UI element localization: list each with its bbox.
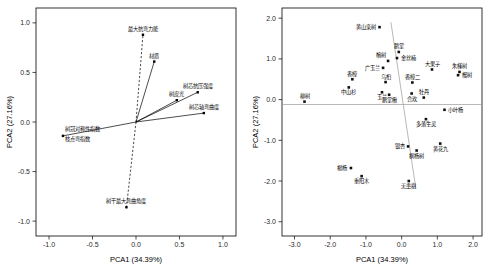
score-point-label: 银杏 (395, 142, 405, 150)
loading-vector-head (176, 99, 178, 101)
y-tick-label: -1.0 (18, 218, 30, 225)
score-point (360, 175, 363, 178)
score-point-label: 无患樹 (401, 182, 416, 190)
score-point (388, 93, 391, 96)
loadings-plot-svg: -1.0-0.50.00.51.0 -1.0-0.50.00.51.0 最大抗弯… (0, 0, 247, 275)
score-point (422, 96, 425, 99)
score-point-label: 广玉兰 (365, 64, 380, 72)
score-point-label: 黄花九 (433, 145, 449, 153)
panel-scores-scatter: -3.0-2.0-1.00.01.02.0 -3.0-2.0-1.00.01.0… (246, 0, 493, 275)
score-point-label: 榴树 (462, 71, 472, 79)
score-point-label: 黄山栾树 (356, 23, 376, 31)
loading-vector (126, 122, 136, 207)
loading-vector (136, 62, 154, 122)
x-tick-label: -1.0 (360, 241, 372, 248)
scores-y-axis-ticks: -3.0-2.0-1.00.01.02.0 (264, 15, 282, 226)
loading-vector (136, 113, 204, 122)
score-point (415, 149, 418, 152)
y-tick-label: 0.0 (20, 119, 30, 126)
score-point (396, 57, 399, 60)
score-point (458, 71, 461, 74)
score-point-label: 多落生灵 (416, 120, 436, 128)
score-point (407, 180, 410, 183)
score-point (425, 118, 428, 121)
x-tick-label: 0.5 (175, 241, 185, 248)
loadings-vectors: 最大抗弯力能材质树芯抗压强度树皮光树芯轴弯曲度树冠对称性指数枝点弯指数树干最大弯… (62, 25, 219, 209)
loadings-y-axis-title: PCA2 (27.16%) (5, 95, 14, 148)
score-point-label: 中山杉 (341, 88, 356, 96)
scores-plot-svg: -3.0-2.0-1.00.01.02.0 -3.0-2.0-1.00.01.0… (246, 0, 493, 275)
x-tick-label: -0.5 (86, 241, 98, 248)
loading-vector-head (153, 60, 155, 62)
loading-vector-label: 树芯抗压强度 (183, 82, 213, 90)
loadings-y-axis-ticks: -1.0-0.50.00.51.0 (18, 19, 36, 224)
loading-vector-head (62, 135, 64, 137)
loading-vector-head (125, 206, 127, 208)
score-point (431, 68, 434, 71)
y-tick-label: 1.0 (266, 55, 276, 62)
score-point (410, 92, 413, 95)
scores-x-axis-title: PCA1 (34.39%) (356, 255, 409, 264)
scores-points: 黄山栾树鹅掌榕树金丝楠广玉兰香樟大果子朱槿树榴树乌桕中山杉香樟二玉兰鹅掌楸合欢牡… (300, 23, 472, 190)
loading-vector (136, 35, 143, 122)
loadings-x-axis-title: PCA1 (34.39%) (110, 255, 163, 264)
y-tick-label: 0.5 (20, 69, 30, 76)
score-point-label: 香樟二 (405, 73, 420, 81)
score-point-label: 牡丹 (419, 88, 429, 96)
y-tick-label: -0.5 (18, 168, 30, 175)
score-point-label: 重阳木 (354, 177, 370, 185)
score-point-label: 香樟 (347, 70, 357, 78)
score-point (457, 74, 460, 77)
y-tick-label: 0.0 (266, 96, 276, 103)
score-point-label: 楊杨 (337, 164, 347, 172)
loadings-x-axis-ticks: -1.0-0.50.00.51.0 (43, 236, 228, 248)
score-point (384, 81, 387, 84)
loading-vector-label: 树干最大弯曲角度 (106, 197, 146, 205)
scores-reference-lines (282, 22, 482, 189)
scores-y-axis-title: PCA2 (27.16%) (251, 95, 260, 148)
loading-vector-label: 最大抗弯力能 (128, 25, 158, 33)
x-tick-label: -1.0 (43, 241, 55, 248)
loading-vector-head (203, 112, 205, 114)
x-tick-label: 0.0 (131, 241, 141, 248)
loading-vector-label: 材质 (149, 52, 159, 60)
score-point-label: 枫杨树 (409, 152, 424, 160)
score-point (411, 81, 414, 84)
loading-vector-head (142, 34, 144, 36)
x-tick-label: -3.0 (288, 241, 300, 248)
score-point (381, 91, 384, 94)
loading-vector (136, 100, 177, 122)
x-tick-label: -2.0 (324, 241, 336, 248)
score-point-label: 鹅掌 (394, 42, 404, 50)
scores-x-axis-ticks: -3.0-2.0-1.00.01.02.0 (288, 236, 478, 248)
y-tick-label: -3.0 (264, 218, 276, 225)
score-point-label: 小叶杨 (448, 106, 463, 114)
y-tick-label: 2.0 (266, 15, 276, 22)
score-point (303, 100, 306, 103)
loading-vector-label: 枝点弯指数 (65, 135, 91, 143)
score-point-label: 鹅掌楸 (382, 96, 398, 104)
y-tick-label: -2.0 (264, 178, 276, 185)
score-point-label: 乌桕 (381, 73, 391, 81)
loading-vector-label: 树芯轴弯曲度 (189, 103, 219, 111)
x-tick-label: 2.0 (468, 241, 478, 248)
score-point (382, 67, 385, 70)
scores-plot-frame (282, 8, 482, 236)
loading-vector-label: 树冠对称性指数 (65, 125, 101, 133)
loading-vector-head (197, 91, 199, 93)
score-point (351, 78, 354, 81)
pca-figure: -1.0-0.50.00.51.0 -1.0-0.50.00.51.0 最大抗弯… (0, 0, 493, 275)
panel-loadings-biplot: -1.0-0.50.00.51.0 -1.0-0.50.00.51.0 最大抗弯… (0, 0, 247, 275)
score-point-label: 大果子 (425, 60, 440, 68)
loading-vector-label: 树皮光 (169, 90, 184, 98)
score-point (350, 167, 353, 170)
score-point (378, 26, 381, 29)
score-point-label: 合欢 (407, 95, 418, 103)
score-point (443, 108, 446, 111)
score-point-label: 榕树 (376, 51, 386, 59)
score-point (387, 60, 390, 63)
x-tick-label: 0.0 (397, 241, 407, 248)
score-point-label: 柳树 (300, 92, 310, 100)
y-tick-label: -1.0 (264, 137, 276, 144)
score-point (439, 142, 442, 145)
